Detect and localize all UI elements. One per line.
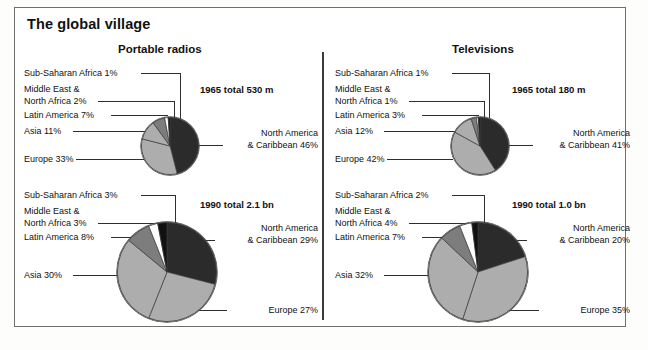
label-middle-east-line2-radios-1990: North Africa 3% — [24, 218, 87, 230]
chart-frame — [14, 7, 626, 327]
leader-latin-america-tv-1965 — [422, 115, 479, 116]
leader-north-america-tv-1965 — [509, 145, 533, 146]
leader-v-sub-saharan-radios-1965 — [180, 73, 181, 121]
pie-chart-tv-1990 — [428, 222, 528, 322]
label-north-america-line1-radios-1990: North America — [190, 223, 318, 235]
panel-divider — [322, 52, 324, 320]
label-middle-east-tv-1965: Middle East & North Africa 1% — [335, 84, 398, 107]
label-north-america-line1-tv-1990: North America — [502, 223, 630, 235]
label-sub-saharan-radios-1990: Sub-Saharan Africa 3% — [24, 190, 118, 202]
infographic-root: The global village Portable radios 1965 … — [0, 0, 648, 350]
leader-middle-east-radios-1965 — [98, 101, 175, 102]
label-latin-america-tv-1990: Latin America 7% — [335, 232, 405, 244]
pie-chart-radios-1965 — [141, 117, 199, 175]
panel-title-televisions: Televisions — [452, 43, 514, 55]
leader-asia-radios-1965 — [73, 131, 155, 132]
label-europe-tv-1990: Europe 35% — [542, 305, 630, 317]
label-europe-radios-1990: Europe 27% — [230, 305, 318, 317]
label-middle-east-line1-radios-1965: Middle East & — [24, 84, 87, 96]
page-title: The global village — [27, 16, 150, 32]
label-europe-tv-1965: Europe 42% — [335, 154, 385, 166]
leader-sub-saharan-radios-1990 — [141, 195, 176, 196]
label-middle-east-line1-radios-1990: Middle East & — [24, 206, 87, 218]
leader-sub-saharan-radios-1965 — [141, 73, 181, 74]
label-asia-tv-1965: Asia 12% — [335, 126, 373, 138]
leader-sub-saharan-tv-1965 — [452, 73, 490, 74]
pie-chart-tv-1965 — [451, 117, 509, 175]
label-sub-saharan-tv-1990: Sub-Saharan Africa 2% — [335, 190, 429, 202]
leader-v-sub-saharan-tv-1965 — [489, 73, 490, 118]
total-note-tv-1965: 1965 total 180 m — [512, 84, 585, 95]
leader-north-america-radios-1965 — [199, 145, 223, 146]
leader-sub-saharan-tv-1990 — [452, 195, 485, 196]
label-middle-east-radios-1990: Middle East & North Africa 3% — [24, 206, 87, 229]
label-middle-east-line2-tv-1990: North Africa 4% — [335, 218, 398, 230]
label-middle-east-line2-radios-1965: North Africa 2% — [24, 96, 87, 108]
label-middle-east-line1-tv-1965: Middle East & — [335, 84, 398, 96]
label-middle-east-tv-1990: Middle East & North Africa 4% — [335, 206, 398, 229]
leader-europe-radios-1965 — [76, 159, 144, 160]
label-middle-east-radios-1965: Middle East & North Africa 2% — [24, 84, 87, 107]
label-middle-east-line1-tv-1990: Middle East & — [335, 206, 398, 218]
leader-middle-east-tv-1965 — [409, 101, 485, 102]
panel-title-portable-radios: Portable radios — [118, 43, 202, 55]
label-middle-east-line2-tv-1965: North Africa 1% — [335, 96, 398, 108]
total-note-radios-1965: 1965 total 530 m — [200, 84, 273, 95]
label-north-america-tv-1965: North America & Caribbean 41% — [502, 128, 630, 151]
label-north-america-line1-tv-1965: North America — [502, 128, 630, 140]
total-note-tv-1990: 1990 total 1.0 bn — [512, 199, 586, 210]
pie-chart-radios-1990 — [117, 222, 217, 322]
leader-europe-tv-1965 — [387, 159, 453, 160]
total-note-radios-1990: 1990 total 2.1 bn — [200, 199, 274, 210]
label-asia-tv-1990: Asia 32% — [335, 270, 373, 282]
label-latin-america-radios-1965: Latin America 7% — [24, 110, 94, 122]
label-sub-saharan-radios-1965: Sub-Saharan Africa 1% — [24, 68, 118, 80]
label-sub-saharan-tv-1965: Sub-Saharan Africa 1% — [335, 68, 429, 80]
label-asia-radios-1965: Asia 11% — [24, 126, 61, 138]
label-north-america-radios-1990: North America & Caribbean 29% — [190, 223, 318, 246]
leader-latin-america-radios-1965 — [111, 115, 168, 116]
label-asia-radios-1990: Asia 30% — [24, 270, 62, 282]
label-north-america-line1-radios-1965: North America — [190, 128, 318, 140]
leader-v-middle-east-tv-1965 — [484, 101, 485, 119]
label-north-america-radios-1965: North America & Caribbean 46% — [190, 128, 318, 151]
label-europe-radios-1965: Europe 33% — [24, 154, 74, 166]
label-latin-america-radios-1990: Latin America 8% — [24, 232, 94, 244]
label-latin-america-tv-1965: Latin America 3% — [335, 110, 405, 122]
label-north-america-tv-1990: North America & Caribbean 20% — [502, 223, 630, 246]
